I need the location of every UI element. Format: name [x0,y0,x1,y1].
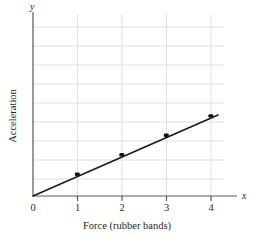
data-point-1 [75,173,80,176]
data-point-3 [164,134,169,137]
chart-background [0,0,259,238]
acceleration-force-chart: 0 1 2 3 4 y x Force (rubber bands) Accel… [0,0,259,238]
x-tick-label-2: 2 [119,202,124,213]
x-tick-label-3: 3 [164,202,169,213]
y-axis-title: Acceleration [7,88,18,142]
x-axis-title: Force (rubber bands) [83,220,172,232]
x-tick-label-1: 1 [75,202,80,213]
x-tick-label-0: 0 [30,202,35,213]
y-axis-symbol: y [29,1,35,12]
data-point-4 [208,114,213,117]
x-axis-symbol: x [241,190,247,201]
x-tick-label-4: 4 [208,202,214,213]
chart-figure: 0 1 2 3 4 y x Force (rubber bands) Accel… [0,0,259,238]
data-point-2 [119,153,124,156]
